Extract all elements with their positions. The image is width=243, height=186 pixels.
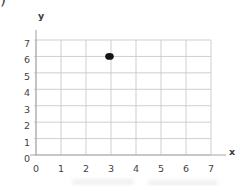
scan-artifact [72, 180, 134, 184]
y-tick-label: 7 [24, 38, 30, 49]
worksheet-page: ) 0123456701234567 y x [0, 0, 243, 186]
y-tick-label: 4 [24, 87, 30, 98]
data-point [105, 53, 114, 60]
x-axis-label: x [229, 147, 235, 157]
x-tick-label: 2 [83, 163, 89, 174]
scan-artifact [148, 181, 218, 185]
x-tick-label: 5 [158, 163, 164, 174]
y-tick-label: 6 [24, 54, 30, 65]
x-tick-label: 3 [108, 163, 114, 174]
coordinate-plane: 0123456701234567 [0, 0, 243, 186]
x-tick-label: 4 [133, 163, 139, 174]
y-axis-label: y [38, 11, 44, 21]
y-tick-label: 2 [24, 120, 30, 131]
x-tick-label: 6 [183, 163, 189, 174]
y-tick-label: 5 [24, 71, 30, 82]
y-tick-label: 1 [24, 137, 30, 148]
y-tick-label: 0 [24, 153, 30, 164]
x-tick-label: 0 [33, 163, 39, 174]
x-tick-label: 1 [58, 163, 64, 174]
y-tick-label: 3 [24, 104, 30, 115]
x-tick-label: 7 [208, 163, 214, 174]
